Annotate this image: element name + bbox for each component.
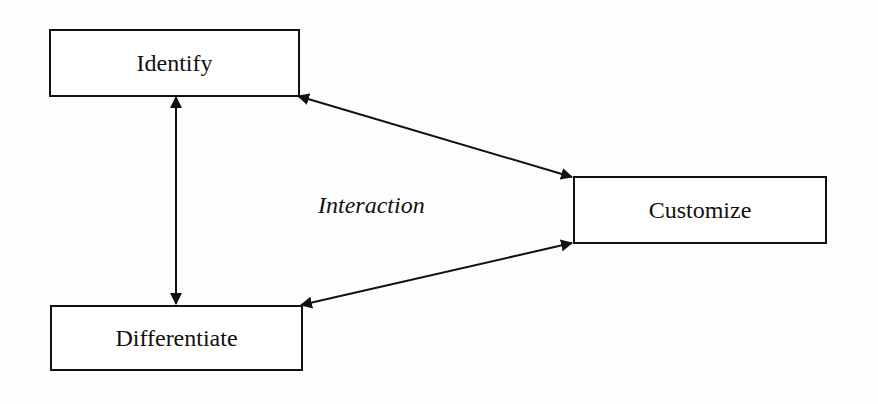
diagram-canvas: Identify Differentiate Customize Interac…	[0, 0, 878, 404]
node-differentiate: Differentiate	[50, 305, 303, 371]
arrow-identify-customize	[298, 96, 572, 177]
node-identify-label: Identify	[137, 50, 213, 77]
node-differentiate-label: Differentiate	[115, 325, 237, 352]
interaction-label: Interaction	[318, 192, 425, 219]
node-customize-label: Customize	[649, 197, 752, 224]
node-customize: Customize	[573, 176, 827, 244]
node-identify: Identify	[49, 29, 300, 97]
arrow-differentiate-customize	[301, 243, 572, 305]
